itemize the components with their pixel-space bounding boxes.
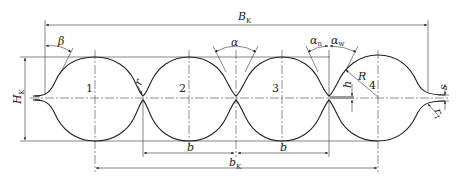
pitch-total-label: bK [229,156,242,171]
end-radius-label: r1 [430,107,446,121]
upper-profile [35,55,445,96]
lower-profile [35,100,445,141]
crest-radius-label: R [357,70,366,83]
bellows-profile-diagram: BK HK β α αn αw R 4 h r s r1 1 2 3 b b b… [0,0,457,181]
root-radius-label: r [132,77,146,87]
convolution-2-number: 2 [179,82,186,95]
beta-label: β [57,35,64,48]
convolution-3-number: 3 [272,82,279,95]
pitch-left-label: b [187,141,194,154]
depth-label: h [341,81,354,88]
thickness-label: s [437,84,450,90]
convolution-4-number: 4 [369,79,376,92]
pitch-right-label: b [280,141,287,154]
convolution-1-number: 1 [86,82,93,95]
alpha-label: α [231,36,239,49]
overall-height-label: HK [11,88,26,105]
alpha-w-label: αw [331,34,344,48]
overall-width-label: BK [237,10,252,25]
alpha-n-label: αn [310,34,322,48]
depth-hatch [330,96,354,99]
alpha-w-tangent [346,46,358,70]
